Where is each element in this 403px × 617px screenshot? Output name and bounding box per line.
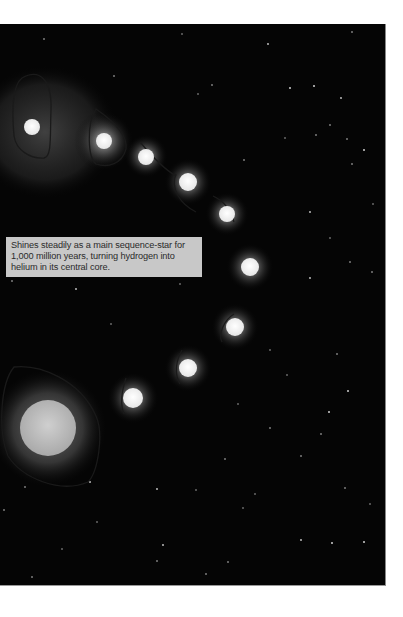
star-evolution-illustration: Shines steadily as a main sequence-star … [0, 24, 386, 586]
starfield-background [0, 24, 385, 585]
caption-box: Shines steadily as a main sequence-star … [6, 237, 202, 277]
